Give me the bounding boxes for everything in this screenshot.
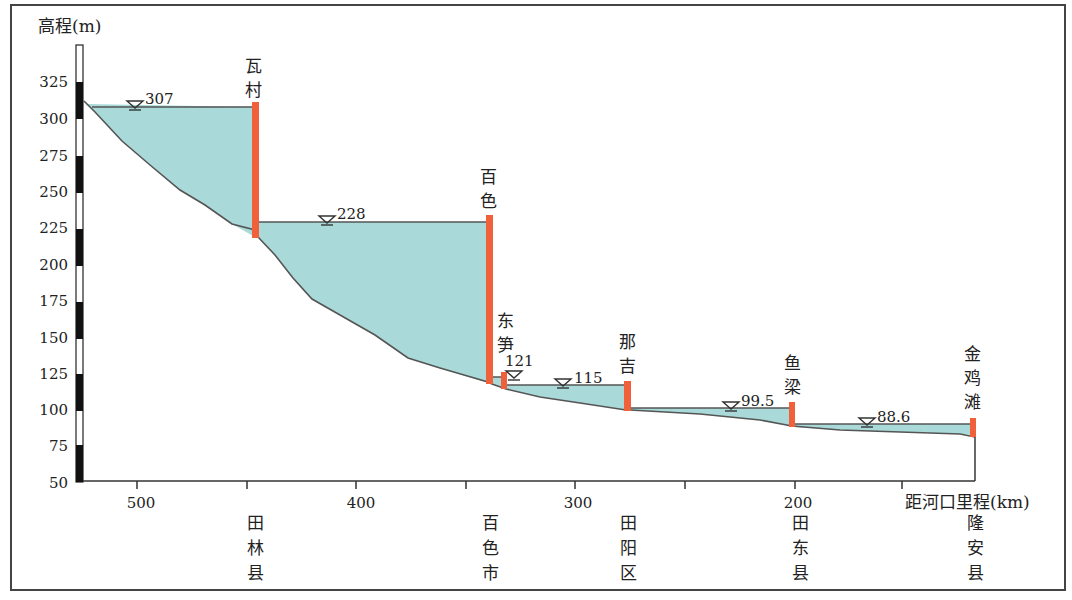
svg-text:瓦: 瓦 bbox=[245, 56, 262, 76]
dam-label-yuliang: 鱼 梁 bbox=[784, 353, 801, 397]
svg-text:梁: 梁 bbox=[784, 377, 801, 397]
svg-text:200: 200 bbox=[784, 494, 813, 512]
svg-text:50: 50 bbox=[49, 474, 68, 492]
svg-text:阳: 阳 bbox=[620, 538, 637, 558]
x-tick-labels: 500 400 300 200 bbox=[127, 494, 813, 512]
county-label-tianlin: 田 林 县 bbox=[247, 513, 264, 583]
river-profile-diagram: 高程(m) 307 228 12 bbox=[0, 0, 1072, 600]
dam-label-jinjitan: 金 鸡 滩 bbox=[964, 344, 981, 412]
county-label-baise-city: 百 色 市 bbox=[482, 513, 499, 583]
svg-text:175: 175 bbox=[39, 292, 68, 310]
triangle-marker-icon bbox=[506, 371, 522, 380]
svg-text:275: 275 bbox=[39, 147, 68, 165]
svg-text:150: 150 bbox=[39, 329, 68, 347]
y-tick-labels: 325 300 275 250 225 200 175 150 125 100 … bbox=[39, 73, 68, 492]
water-level-label-baise: 228 bbox=[337, 205, 366, 223]
svg-text:县: 县 bbox=[247, 563, 264, 583]
svg-text:200: 200 bbox=[39, 256, 68, 274]
reservoir-wacun bbox=[86, 104, 255, 237]
svg-text:金: 金 bbox=[964, 344, 981, 364]
svg-text:百: 百 bbox=[480, 167, 497, 187]
svg-text:田: 田 bbox=[792, 513, 809, 533]
svg-text:东: 东 bbox=[497, 311, 514, 331]
water-level-label-wacun: 307 bbox=[145, 90, 174, 108]
svg-text:那: 那 bbox=[619, 332, 636, 352]
svg-text:325: 325 bbox=[39, 73, 68, 91]
svg-text:色: 色 bbox=[480, 191, 497, 211]
svg-text:村: 村 bbox=[245, 80, 262, 100]
svg-text:田: 田 bbox=[620, 513, 637, 533]
county-label-longan: 隆 安 县 bbox=[967, 513, 984, 583]
water-level-label-yuliang: 99.5 bbox=[741, 392, 774, 410]
svg-text:田: 田 bbox=[247, 513, 264, 533]
dam-dongsun bbox=[501, 372, 507, 389]
svg-text:色: 色 bbox=[482, 538, 499, 558]
y-axis-title: 高程(m) bbox=[38, 16, 101, 36]
svg-text:225: 225 bbox=[39, 219, 68, 237]
svg-text:市: 市 bbox=[482, 563, 499, 583]
svg-text:县: 县 bbox=[792, 563, 809, 583]
dam-naji bbox=[624, 381, 631, 411]
svg-text:安: 安 bbox=[967, 538, 984, 558]
svg-text:隆: 隆 bbox=[967, 513, 984, 533]
dam-label-dongsun: 东 笋 bbox=[497, 311, 514, 355]
svg-text:吉: 吉 bbox=[619, 356, 636, 376]
svg-text:100: 100 bbox=[39, 401, 68, 419]
water-level-label-naji: 115 bbox=[574, 369, 603, 387]
dam-wacun bbox=[252, 102, 259, 238]
reservoir-baise bbox=[258, 222, 488, 383]
svg-text:300: 300 bbox=[39, 110, 68, 128]
svg-text:百: 百 bbox=[482, 513, 499, 533]
county-label-tianyang: 田 阳 区 bbox=[620, 513, 637, 583]
county-label-tiandong: 田 东 县 bbox=[792, 513, 809, 583]
reservoir-naji bbox=[506, 385, 626, 410]
dam-baise bbox=[486, 215, 493, 384]
svg-text:125: 125 bbox=[39, 365, 68, 383]
svg-text:500: 500 bbox=[127, 494, 156, 512]
dam-label-naji: 那 吉 bbox=[619, 332, 636, 376]
svg-text:300: 300 bbox=[564, 494, 593, 512]
svg-text:75: 75 bbox=[49, 437, 68, 455]
svg-text:笋: 笋 bbox=[497, 335, 514, 355]
x-axis-ticks bbox=[137, 481, 902, 489]
svg-text:林: 林 bbox=[247, 538, 264, 558]
dam-yuliang bbox=[789, 402, 795, 427]
svg-text:250: 250 bbox=[39, 183, 68, 201]
svg-text:鱼: 鱼 bbox=[784, 353, 801, 373]
y-axis-scale-bar bbox=[76, 45, 83, 482]
svg-text:滩: 滩 bbox=[964, 392, 981, 412]
dam-label-baise: 百 色 bbox=[480, 167, 497, 211]
dam-label-wacun: 瓦 村 bbox=[245, 56, 262, 100]
svg-text:县: 县 bbox=[967, 563, 984, 583]
svg-text:鸡: 鸡 bbox=[964, 368, 981, 388]
svg-text:东: 东 bbox=[792, 538, 809, 558]
dam-jinjitan bbox=[970, 418, 976, 437]
x-axis-title: 距河口里程(km) bbox=[905, 492, 1030, 512]
water-level-label-jinjitan: 88.6 bbox=[877, 408, 910, 426]
svg-text:400: 400 bbox=[347, 494, 376, 512]
svg-text:区: 区 bbox=[620, 563, 637, 583]
